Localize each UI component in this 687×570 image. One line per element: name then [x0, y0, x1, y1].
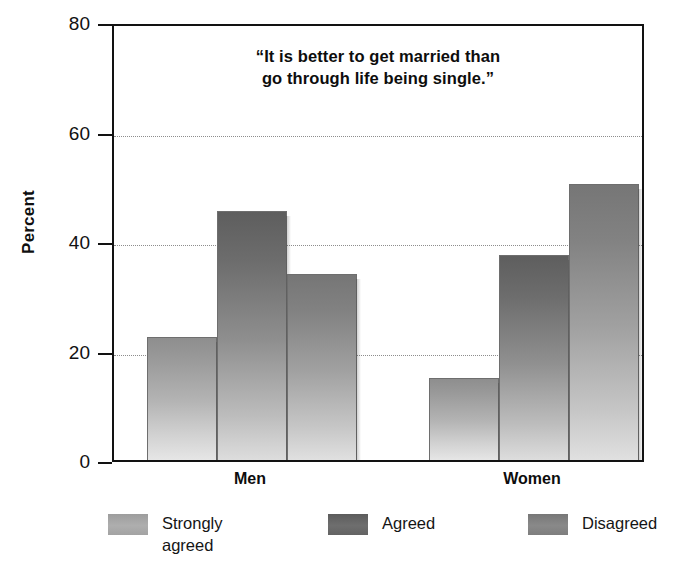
bar: [569, 184, 639, 460]
x-axis-category-label: Women: [503, 470, 560, 488]
bar: [147, 337, 217, 460]
legend-swatch: [328, 514, 368, 535]
gridline: [114, 245, 642, 246]
y-tick-label: 60: [30, 123, 90, 145]
y-tick-mark: [98, 134, 112, 136]
y-tick-mark: [98, 462, 112, 464]
y-tick-mark: [98, 243, 112, 245]
legend-swatch: [108, 514, 148, 535]
plot-area: “It is better to get married than go thr…: [112, 24, 644, 462]
bar: [287, 274, 357, 460]
legend-label: Agreed: [382, 512, 435, 534]
y-tick-label: 20: [30, 342, 90, 364]
legend-item[interactable]: Strongly agreed: [108, 512, 223, 557]
x-axis-category-label: Men: [234, 470, 266, 488]
y-tick-mark: [98, 24, 112, 26]
bar: [499, 255, 569, 460]
legend-label: Strongly agreed: [162, 512, 223, 557]
legend-item[interactable]: Disagreed: [528, 512, 657, 535]
legend-item[interactable]: Agreed: [328, 512, 435, 535]
y-axis-title: Percent: [19, 167, 39, 277]
gridline: [114, 136, 642, 137]
chart-title-line-2: go through life being single.”: [114, 68, 642, 90]
y-tick-label: 80: [30, 13, 90, 35]
chart-title: “It is better to get married than go thr…: [114, 46, 642, 90]
bar-chart: Percent 806040200 “It is better to get m…: [0, 0, 687, 570]
y-tick-label: 40: [30, 232, 90, 254]
chart-title-line-1: “It is better to get married than: [114, 46, 642, 68]
y-tick-label: 0: [30, 451, 90, 473]
legend-swatch: [528, 514, 568, 535]
legend-label: Disagreed: [582, 512, 657, 534]
y-tick-mark: [98, 353, 112, 355]
chart-legend: Strongly agreedAgreedDisagreed: [0, 512, 687, 570]
bar: [429, 378, 499, 460]
bar: [217, 211, 287, 460]
